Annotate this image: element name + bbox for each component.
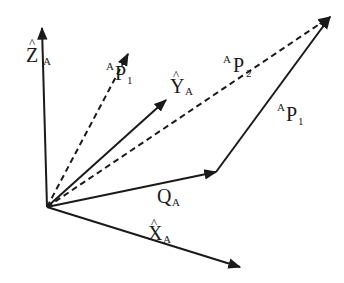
svg-text:A: A bbox=[43, 55, 51, 67]
vector-diagram: ^ Z A A P 1 ^ Y A A P 2 A P 1 Q A ^ X A bbox=[0, 0, 344, 283]
svg-text:Q: Q bbox=[157, 185, 172, 207]
svg-text:P: P bbox=[233, 54, 244, 76]
svg-text:P: P bbox=[286, 103, 297, 125]
y-axis-vector bbox=[47, 100, 166, 207]
svg-text:A: A bbox=[223, 53, 231, 65]
svg-text:1: 1 bbox=[127, 74, 133, 86]
p1-left-label: A P 1 bbox=[106, 60, 133, 86]
p1-solid-vector bbox=[216, 17, 330, 172]
y-axis-label: ^ Y A bbox=[170, 67, 193, 97]
svg-text:P: P bbox=[115, 62, 126, 84]
p2-label: A P 2 bbox=[223, 53, 252, 79]
svg-text:2: 2 bbox=[246, 67, 252, 79]
svg-text:1: 1 bbox=[298, 115, 304, 127]
svg-text:A: A bbox=[106, 60, 114, 72]
svg-text:Y: Y bbox=[170, 75, 184, 97]
svg-text:Z: Z bbox=[26, 44, 38, 66]
svg-text:A: A bbox=[163, 233, 171, 245]
svg-text:X: X bbox=[148, 222, 163, 244]
svg-text:A: A bbox=[172, 196, 180, 208]
svg-text:A: A bbox=[277, 101, 285, 113]
svg-text:A: A bbox=[185, 85, 193, 97]
q-label: Q A bbox=[157, 185, 180, 208]
p1-right-label: A P 1 bbox=[277, 101, 304, 127]
z-axis-label: ^ Z A bbox=[26, 35, 51, 67]
x-axis-vector bbox=[47, 207, 240, 267]
x-axis-label: ^ X A bbox=[148, 215, 171, 245]
